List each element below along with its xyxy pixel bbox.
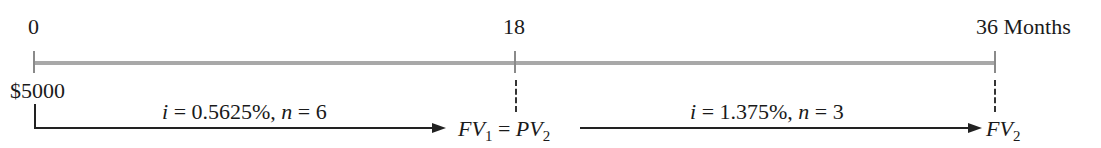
dashed-line-36 (994, 80, 996, 112)
start-connector (34, 104, 36, 128)
segment-2-label: i = 1.375%, n = 3 (690, 99, 844, 125)
dashed-line-18 (515, 80, 517, 112)
tick-mark-0 (33, 51, 35, 73)
tick-label-36: 36 Months (976, 14, 1071, 40)
tick-label-0: 0 (28, 14, 39, 40)
fv2-label: FV2 (986, 116, 1020, 142)
tick-mark-18 (514, 51, 516, 73)
fv1-equals-pv2: FV1 = PV2 (458, 116, 550, 142)
tick-label-18: 18 (503, 14, 525, 40)
segment-1-label: i = 0.5625%, n = 6 (162, 99, 327, 125)
arrow-segment-1 (34, 127, 436, 129)
tick-mark-36 (994, 51, 996, 73)
start-amount: $5000 (10, 78, 65, 104)
arrowhead-icon (968, 123, 982, 133)
arrow-segment-2 (580, 127, 972, 129)
arrowhead-icon (432, 123, 446, 133)
